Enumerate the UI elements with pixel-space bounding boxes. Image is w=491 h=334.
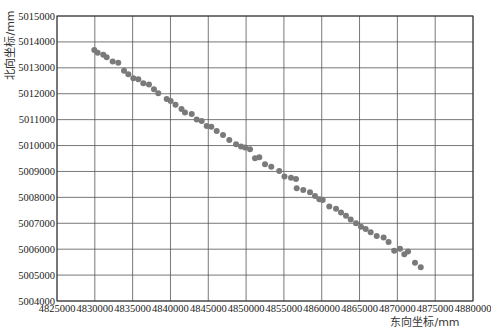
grid-lines (57, 16, 473, 301)
data-point (307, 189, 313, 195)
y-tick-label: 5007000 (18, 218, 55, 229)
data-point (140, 80, 146, 86)
data-point (173, 102, 179, 108)
x-tick-label: 4855000 (266, 303, 303, 314)
data-point (110, 59, 116, 65)
data-point (320, 197, 326, 203)
data-point (220, 132, 226, 138)
y-tick-label: 5013000 (18, 62, 55, 73)
data-point (214, 128, 220, 134)
data-point (368, 229, 374, 235)
data-point (125, 71, 131, 77)
data-point (155, 90, 161, 96)
data-point (326, 203, 332, 209)
y-axis-label: 北向坐标/mm (3, 10, 17, 79)
data-point (343, 213, 349, 219)
data-point (293, 176, 299, 182)
y-tick-label: 5009000 (18, 166, 55, 177)
x-tick-label: 4875000 (417, 303, 454, 314)
x-tick-label: 4845000 (190, 303, 227, 314)
data-point (146, 81, 152, 87)
data-point (199, 118, 205, 124)
y-tick-label: 5004000 (18, 296, 55, 307)
x-tick-label: 4835000 (114, 303, 151, 314)
y-tick-label: 5006000 (18, 244, 55, 255)
data-point (182, 109, 188, 115)
data-point (397, 246, 403, 252)
data-points (91, 47, 423, 270)
data-point (268, 164, 274, 170)
x-tick-label: 4880000 (455, 303, 491, 314)
y-tick-label: 5008000 (18, 192, 55, 203)
data-point (288, 175, 294, 181)
data-point (95, 50, 101, 56)
data-point (294, 185, 300, 191)
data-point (418, 264, 424, 270)
data-point (115, 60, 121, 66)
data-point (412, 260, 418, 266)
data-point (226, 137, 232, 143)
y-tick-label: 5005000 (18, 270, 55, 281)
x-tick-label: 4850000 (228, 303, 265, 314)
data-point (353, 220, 359, 226)
data-point (300, 187, 306, 193)
data-point (208, 124, 214, 130)
x-tick-label: 4865000 (341, 303, 378, 314)
x-tick-label: 4870000 (379, 303, 416, 314)
scatter-chart: 4825000483000048350004840000484500048500… (0, 0, 491, 334)
data-point (256, 154, 262, 160)
data-point (405, 249, 411, 255)
y-tick-label: 5012000 (18, 88, 55, 99)
data-point (247, 146, 253, 152)
data-point (135, 76, 141, 82)
y-tick-labels: 5004000500500050060005007000500800050090… (18, 11, 55, 307)
y-tick-label: 5014000 (18, 36, 55, 47)
data-point (391, 248, 397, 254)
x-tick-label: 4840000 (152, 303, 189, 314)
plot-frame (57, 16, 473, 301)
data-point (374, 233, 380, 239)
data-point (381, 235, 387, 241)
x-tick-label: 4830000 (76, 303, 113, 314)
data-point (386, 239, 392, 245)
data-point (276, 168, 282, 174)
data-point (104, 54, 110, 60)
x-axis-label: 东向坐标/mm (390, 315, 459, 329)
data-point (333, 206, 339, 212)
x-tick-label: 4860000 (303, 303, 340, 314)
y-tick-label: 5015000 (18, 11, 55, 22)
data-point (168, 98, 174, 104)
data-point (282, 173, 288, 179)
data-point (130, 75, 136, 81)
data-point (348, 216, 354, 222)
y-tick-label: 5010000 (18, 140, 55, 151)
data-point (189, 111, 195, 117)
data-point (363, 226, 369, 232)
x-tick-labels: 4825000483000048350004840000484500048500… (39, 303, 491, 314)
data-point (338, 209, 344, 215)
y-tick-label: 5011000 (19, 114, 55, 125)
data-point (262, 161, 268, 167)
